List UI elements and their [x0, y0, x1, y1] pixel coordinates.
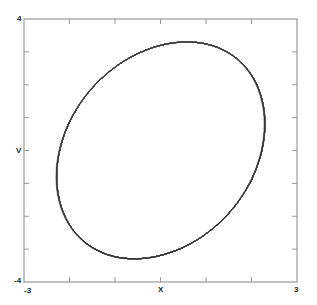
- x-axis-label: X: [158, 286, 163, 294]
- trajectory-lines: [56, 42, 265, 259]
- x-max-label: 3: [294, 286, 298, 294]
- axis-ticks: [24, 19, 297, 282]
- y-min-label: -4: [14, 277, 21, 285]
- y-axis-label: V: [16, 147, 21, 155]
- phase-plot: [0, 0, 317, 305]
- plot-frame: [24, 19, 297, 282]
- y-max-label: 4: [17, 15, 21, 23]
- x-min-label: -3: [24, 287, 31, 295]
